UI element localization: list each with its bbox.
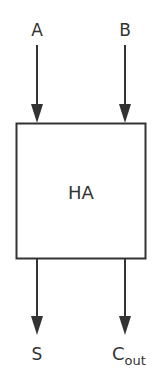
- input-label-b: B: [119, 20, 131, 40]
- output-label-c: C: [112, 343, 125, 364]
- arrowhead-down-icon: [31, 104, 43, 123]
- arrowhead-down-icon: [119, 104, 131, 123]
- block-label: HA: [68, 182, 95, 203]
- output-arrow-s: [31, 259, 43, 335]
- output-label-s: S: [32, 344, 43, 364]
- output-label-cout: Cout: [112, 343, 146, 368]
- half-adder-diagram: A B HA S Cout: [0, 0, 162, 371]
- arrowhead-down-icon: [31, 316, 43, 335]
- arrowhead-down-icon: [119, 316, 131, 335]
- input-label-a: A: [31, 20, 43, 40]
- output-arrow-cout: [119, 259, 131, 335]
- input-arrow-a: [31, 45, 43, 123]
- output-label-subscript: out: [125, 353, 146, 368]
- input-arrow-b: [119, 45, 131, 123]
